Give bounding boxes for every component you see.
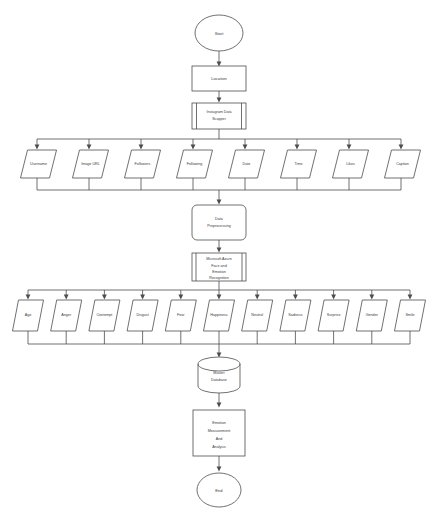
recognition-output-sadness[interactable]: Sadness — [280, 300, 311, 331]
recognition-output-neutral[interactable]: Neutral — [242, 300, 273, 331]
emotion-fanout-arrow-10 — [369, 295, 374, 300]
recognition-output-label-10: Gender — [366, 313, 379, 317]
recognition-output-label-11: Smile — [405, 313, 414, 317]
scraped-field-label-1: Username — [30, 162, 47, 166]
preprocessing-label-line1: Data — [215, 217, 224, 221]
database-cylinder-body — [198, 357, 240, 393]
azure-label-line4: Recognition — [209, 276, 228, 280]
node-data-preprocessing[interactable]: Data Preprocessing — [192, 205, 246, 240]
recognition-output-label-4: Disgust — [136, 313, 148, 317]
node-instagram-data-scraper[interactable]: Instagram Data Scapper — [192, 103, 246, 129]
location-label: Location — [211, 76, 227, 81]
database-label-line1: Master — [213, 371, 225, 375]
fanout-arrow-7 — [347, 145, 352, 150]
scraped-field-username[interactable]: Username — [21, 150, 57, 178]
azure-label-line2: Face and — [211, 264, 226, 268]
node-emotion-measurement-analysis[interactable]: Emotion Measurement And Analysis — [193, 410, 245, 456]
scraped-fields-row: Username Image URL Followers Following D… — [21, 150, 421, 178]
recognition-output-disgust[interactable]: Disgust — [127, 300, 158, 331]
node-start[interactable]: Start — [195, 15, 243, 51]
scraped-field-label-7: Likes — [346, 162, 355, 166]
scraper-rect — [192, 103, 246, 129]
scraper-label-line1: Instagram Data — [206, 110, 232, 114]
arrow-bus-to-preprocessing — [217, 200, 222, 205]
recognition-output-label-1: Age — [25, 313, 32, 317]
node-master-database[interactable]: Master Database — [198, 357, 240, 393]
fanout-arrow-5 — [243, 145, 248, 150]
scraped-field-likes[interactable]: Likes — [333, 150, 369, 178]
scraped-field-label-2: Image URL — [81, 162, 100, 166]
scraped-field-date[interactable]: Date — [229, 150, 265, 178]
node-azure-face-emotion-recognition[interactable]: Microsoft Azure Face and Emotion Recogni… — [192, 253, 246, 281]
emotion-fanout-arrow-11 — [408, 295, 413, 300]
emotion-fanout-arrow-9 — [331, 295, 336, 300]
emotion-fanout-arrow-1 — [26, 295, 31, 300]
fanout-arrow-1 — [35, 145, 40, 150]
scraped-field-image-url[interactable]: Image URL — [73, 150, 109, 178]
start-label: Start — [215, 31, 225, 36]
emotion-fanout-arrow-5 — [178, 295, 183, 300]
arrow-analysis-to-end — [217, 467, 222, 472]
preprocessing-rect — [192, 205, 246, 240]
recognition-output-contempt[interactable]: Contempt — [89, 300, 120, 331]
fanout-arrow-8 — [399, 145, 404, 150]
emotion-fanout-arrow-7 — [255, 295, 260, 300]
flowchart-canvas: Start Location Instagram Data Scapper Us… — [0, 0, 436, 525]
scraped-field-label-5: Date — [243, 162, 251, 166]
recognition-output-age[interactable]: Age — [13, 300, 44, 331]
scraped-field-followers[interactable]: Followers — [125, 150, 161, 178]
analysis-rect — [193, 410, 245, 456]
scraped-field-following[interactable]: Following — [177, 150, 213, 178]
analysis-label-line2: Measurement — [208, 429, 231, 433]
database-label-line2: Database — [211, 378, 227, 382]
scraped-field-label-6: Time — [294, 162, 302, 166]
recognition-output-label-8: Sadness — [288, 313, 303, 317]
preprocessing-label-line2: Preprocessing — [207, 224, 231, 228]
emotion-fanout-arrow-8 — [293, 295, 298, 300]
scraped-field-caption[interactable]: Caption — [385, 150, 421, 178]
analysis-label-line1: Emotion — [212, 421, 226, 425]
recognition-output-label-5: Fear — [177, 313, 185, 317]
recognition-output-happiness[interactable]: Happiness — [204, 300, 235, 331]
fanout-arrow-3 — [139, 145, 144, 150]
recognition-output-surprise[interactable]: Surprise — [318, 300, 349, 331]
emotion-fanout-arrow-2 — [64, 295, 69, 300]
flowchart-svg: Start Location Instagram Data Scapper Us… — [0, 0, 436, 525]
emotion-fanout-arrow-6 — [217, 295, 222, 300]
fanout-arrow-2 — [87, 145, 92, 150]
scraped-field-time[interactable]: Time — [281, 150, 317, 178]
recognition-output-smile[interactable]: Smile — [395, 300, 426, 331]
recognition-output-fear[interactable]: Fear — [165, 300, 196, 331]
recognition-output-label-9: Surprise — [327, 313, 341, 317]
scraped-field-label-4: Following — [187, 162, 203, 166]
recognition-output-label-2: Anger — [61, 313, 72, 317]
fanout-arrow-4 — [191, 145, 196, 150]
emotion-fanout-arrow-4 — [140, 295, 145, 300]
recognition-output-label-3: Contempt — [96, 313, 112, 317]
scraped-field-label-8: Caption — [396, 162, 409, 166]
recognition-output-gender[interactable]: Gender — [356, 300, 387, 331]
arrow-database-to-analysis — [217, 403, 222, 408]
recognition-outputs-row: Age Anger Contempt Disgust Fear Happines… — [13, 300, 426, 331]
recognition-output-label-6: Happiness — [210, 313, 228, 317]
azure-label-line1: Microsoft Azure — [206, 257, 231, 261]
end-label: End — [215, 488, 223, 493]
emotion-fanout-arrow-3 — [102, 295, 107, 300]
recognition-output-anger[interactable]: Anger — [51, 300, 82, 331]
node-end[interactable]: End — [197, 473, 241, 507]
fanout-arrow-6 — [295, 145, 300, 150]
analysis-label-line3: And — [216, 437, 223, 441]
azure-label-line3: Emotion — [212, 270, 226, 274]
arrow-location-to-scraper — [217, 98, 222, 103]
analysis-label-line4: Analysis — [212, 445, 226, 449]
node-location[interactable]: Location — [192, 66, 246, 91]
scraped-field-label-3: Followers — [135, 162, 151, 166]
recognition-output-label-7: Neutral — [251, 313, 263, 317]
arrow-preprocessing-to-azure — [217, 248, 222, 253]
scraper-label-line2: Scapper — [212, 117, 227, 121]
